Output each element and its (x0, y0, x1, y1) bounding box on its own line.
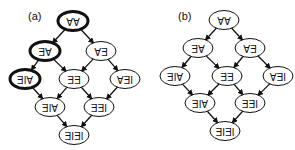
edge-arrow (53, 29, 66, 43)
edge-arrow (205, 28, 216, 40)
node-label: IEIE (215, 126, 234, 137)
node-aie: AIE (35, 98, 65, 117)
node-aie: AIE (160, 67, 190, 86)
node-ee: EE (212, 67, 242, 86)
edge-arrow (258, 56, 270, 68)
edge-arrow (57, 87, 67, 98)
node-label: IEE (242, 98, 258, 109)
node-aie: AIE (185, 94, 215, 113)
node-aa: AA (58, 12, 88, 31)
edge-arrow (206, 56, 219, 69)
edge-arrow (232, 111, 242, 123)
edge-arrow (258, 84, 270, 96)
node-label: EA (243, 43, 257, 54)
node-ea: EA (235, 39, 265, 58)
node-label: AE (191, 43, 205, 54)
edge-arrow (234, 84, 243, 94)
edge-arrow (82, 59, 94, 71)
node-ae: AE (183, 39, 213, 58)
edge-arrow (53, 59, 66, 72)
node-label: IEA (117, 74, 133, 85)
node-label: IEA (270, 71, 286, 82)
edge-arrow (182, 56, 191, 67)
edge-arrow (81, 29, 94, 43)
node-label: AIE (42, 102, 58, 113)
edge-arrow (106, 87, 117, 99)
node-label: AIE (17, 74, 33, 85)
node-ae: AE (30, 42, 60, 61)
node-ieie: IEIE (210, 122, 240, 141)
edge-arrow (31, 60, 38, 70)
node-label: EE (67, 74, 81, 85)
edge-arrow (208, 84, 219, 95)
panel-label: (a) (28, 10, 41, 22)
edge-arrow (32, 87, 42, 99)
node-ieie: IEIE (59, 126, 89, 145)
edge-arrow (57, 115, 67, 126)
node-label: AA (217, 15, 231, 26)
node-iee: IEE (235, 94, 265, 113)
node-ee: EE (59, 70, 89, 89)
node-label: IEIE (64, 130, 83, 141)
node-label: EE (220, 71, 234, 82)
edge-arrow (231, 28, 242, 40)
node-label: AIE (167, 71, 183, 82)
node-ea: EA (86, 42, 116, 61)
panel-a: (a)AAAEEAAIEEEIEAAIEIEEIEIE (10, 10, 140, 145)
edge-arrow (81, 87, 91, 99)
node-aie: AIE (10, 70, 40, 89)
node-iea: IEA (110, 70, 140, 89)
edge-arrow (207, 111, 217, 123)
node-label: AIE (192, 98, 208, 109)
edge-arrow (108, 59, 118, 70)
edge-arrow (81, 115, 91, 127)
node-label: AA (66, 16, 80, 27)
node-iee: IEE (84, 98, 114, 117)
panel-label: (b) (178, 10, 191, 22)
node-label: AE (38, 46, 52, 57)
lattice-diagram: (a)AAAEEAAIEEEIEAAIEIEEIEIE (b)AAAEEAAIE… (0, 0, 295, 150)
node-label: EA (94, 46, 108, 57)
node-aa: AA (209, 11, 239, 30)
edge-arrow (182, 84, 192, 95)
panel-b: (b)AAAEEAAIEEEIEAAIEIEEIEIE (160, 10, 293, 141)
node-label: IEE (91, 102, 107, 113)
edge-arrow (234, 56, 243, 67)
node-iea: IEA (263, 67, 293, 86)
